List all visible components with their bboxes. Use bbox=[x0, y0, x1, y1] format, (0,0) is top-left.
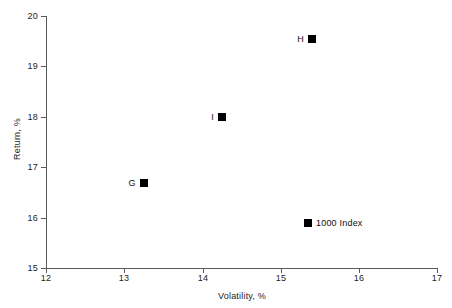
data-point-label: G bbox=[129, 179, 136, 188]
x-tick-label-17: 17 bbox=[424, 274, 450, 283]
x-tick-label-16: 16 bbox=[346, 274, 372, 283]
x-axis-line bbox=[46, 268, 438, 269]
data-point-label: I bbox=[211, 113, 214, 122]
data-point-marker bbox=[218, 113, 226, 121]
y-tick-label-20: 20 bbox=[12, 12, 38, 21]
y-tick-label-16: 16 bbox=[12, 214, 38, 223]
data-point-label: 1000 Index bbox=[316, 219, 363, 228]
y-tick-20 bbox=[41, 16, 46, 17]
y-tick-label-15: 15 bbox=[12, 264, 38, 273]
y-tick-18 bbox=[41, 117, 46, 118]
y-axis-title: Return, % bbox=[12, 69, 22, 209]
data-point-marker bbox=[308, 35, 316, 43]
y-tick-19 bbox=[41, 66, 46, 67]
data-point-marker bbox=[140, 179, 148, 187]
scatter-chart: 20 19 18 17 16 15 12 13 14 15 16 17 Vola… bbox=[0, 0, 452, 308]
data-point-marker bbox=[304, 219, 312, 227]
y-tick-16 bbox=[41, 218, 46, 219]
x-tick-label-14: 14 bbox=[190, 274, 216, 283]
y-tick-17 bbox=[41, 167, 46, 168]
x-axis-title: Volatility, % bbox=[46, 291, 438, 301]
data-point-label: H bbox=[297, 35, 304, 44]
y-axis-line bbox=[46, 16, 47, 269]
x-tick-label-12: 12 bbox=[33, 274, 59, 283]
x-tick-label-13: 13 bbox=[111, 274, 137, 283]
x-tick-label-15: 15 bbox=[268, 274, 294, 283]
